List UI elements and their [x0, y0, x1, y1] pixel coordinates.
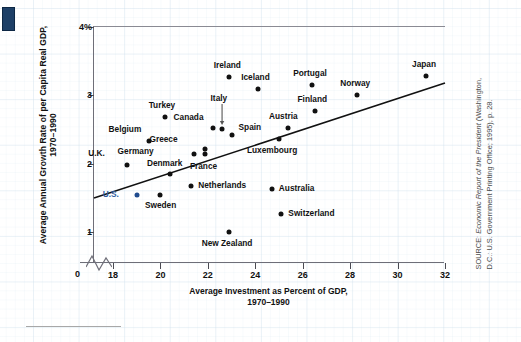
data-point-label: France: [190, 162, 217, 171]
data-point-label: Finland: [298, 95, 328, 104]
source-prefix: SOURCE:: [474, 234, 483, 270]
y-axis-title: Average Annual Growth Rate of per Capita…: [38, 10, 58, 260]
data-point: [189, 184, 194, 189]
data-point-label: Denmark: [147, 159, 183, 168]
source-title: Economic Report of the President: [474, 123, 483, 234]
x-axis-tick: [113, 263, 114, 269]
data-point: [255, 86, 260, 91]
data-point: [191, 151, 196, 156]
data-point: [227, 74, 232, 79]
data-point-label: Sweden: [145, 201, 176, 210]
y-axis-tick-label: 2: [87, 159, 92, 169]
data-point-label: New Zealand: [202, 239, 253, 248]
source-note: SOURCE: Economic Report of the President…: [473, 65, 495, 270]
x-axis-title: Average Investment as Percent of GDP, 19…: [93, 286, 444, 308]
data-point-label: Iceland: [241, 73, 270, 82]
data-point: [355, 93, 360, 98]
x-axis-line: [93, 262, 444, 263]
data-point-label: Greece: [149, 135, 177, 144]
data-point-label: Ireland: [214, 61, 241, 70]
data-point-label: Norway: [340, 79, 370, 88]
data-point: [134, 192, 139, 197]
data-point: [276, 136, 281, 141]
data-points-layer: U.K.U.S.BelgiumSwedenTurkeyDenmarkNether…: [94, 27, 445, 263]
data-point-label: U.K.: [88, 149, 105, 158]
data-point: [167, 172, 172, 177]
data-point: [310, 83, 315, 88]
x-axis-tick-label: 20: [155, 270, 165, 280]
x-axis-tick-label: 24: [250, 270, 260, 280]
x-axis-tick-label: 30: [393, 270, 403, 280]
data-point-label: U.S.: [103, 190, 119, 199]
x-axis-origin-label: 0: [75, 269, 80, 279]
x-axis-tick: [303, 263, 304, 269]
plot-area: U.K.U.S.BelgiumSwedenTurkeyDenmarkNether…: [93, 26, 445, 263]
data-point: [210, 126, 215, 131]
data-point-label: Australia: [279, 184, 315, 193]
y-axis-tick-label: 4%: [79, 22, 92, 32]
x-axis-tick: [255, 263, 256, 269]
blue-tab-marker: [2, 7, 15, 31]
data-point-label: Spain: [239, 123, 262, 132]
data-point-label: Netherlands: [198, 181, 246, 190]
x-axis-tick-label: 28: [345, 270, 355, 280]
data-point: [220, 126, 225, 131]
data-point: [158, 192, 163, 197]
data-point: [286, 126, 291, 131]
data-point: [203, 152, 208, 157]
x-axis-tick: [398, 263, 399, 269]
data-point: [279, 212, 284, 217]
y-axis-tick-label: 1: [87, 227, 92, 237]
x-axis-tick: [350, 263, 351, 269]
data-point: [125, 163, 130, 168]
data-point: [163, 115, 168, 120]
data-point-label: Austria: [269, 112, 298, 121]
data-point: [424, 74, 429, 79]
data-point-label: Japan: [412, 60, 436, 69]
x-axis-tick: [160, 263, 161, 269]
data-point-label: Turkey: [149, 101, 176, 110]
data-point-label: Switzerland: [288, 209, 334, 218]
bottom-divider: [26, 326, 121, 327]
data-point-label: Germany: [118, 147, 154, 156]
data-point: [229, 133, 234, 138]
x-axis-tick: [208, 263, 209, 269]
data-point: [312, 109, 317, 114]
data-point-label: Portugal: [293, 69, 327, 78]
data-point: [203, 146, 208, 151]
x-axis-tick-label: 26: [298, 270, 308, 280]
data-point: [269, 187, 274, 192]
axis-break-icon: [86, 251, 112, 273]
data-point-label: Italy: [211, 94, 228, 103]
data-point-label: Canada: [174, 113, 204, 122]
data-point-label: Belgium: [109, 125, 142, 134]
y-axis-tick-label: 3: [87, 90, 92, 100]
data-point: [227, 229, 232, 234]
x-axis-tick: [445, 263, 446, 269]
x-axis-tick-label: 32: [440, 270, 450, 280]
data-point-label: Luxembourg: [247, 146, 297, 155]
x-axis-tick-label: 22: [203, 270, 213, 280]
